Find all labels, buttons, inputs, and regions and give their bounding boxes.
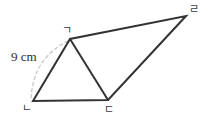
quadrilateral-outline bbox=[33, 16, 186, 101]
side-length-label: 9 cm bbox=[11, 50, 37, 63]
vertex-label-c: ㄷ bbox=[104, 104, 114, 115]
diagonal-segment bbox=[70, 39, 108, 100]
vertex-label-a: ㄱ bbox=[62, 25, 72, 36]
geometry-figure: ㄱ ㄹ ㄴ ㄷ 9 cm bbox=[0, 0, 209, 129]
vertex-label-b: ㄴ bbox=[22, 103, 32, 114]
vertex-label-d: ㄹ bbox=[189, 4, 199, 15]
